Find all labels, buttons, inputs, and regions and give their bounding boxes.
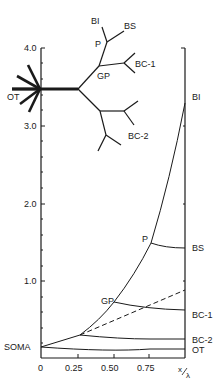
label-ot-right: OT	[192, 345, 205, 355]
x-tick-0: 0	[38, 363, 43, 373]
label-bi-right: BI	[192, 92, 201, 102]
curve-ot	[41, 347, 185, 350]
label-p-curve: P	[142, 234, 148, 244]
y-tick-3: 3.0	[24, 121, 37, 131]
tree-label-ot: OT	[7, 92, 20, 102]
x-axis-label-den: λ	[186, 371, 190, 380]
tree-label-bc1: BC-1	[135, 59, 156, 69]
label-soma: SOMA	[4, 342, 31, 352]
y-tick-2: 2.0	[24, 199, 37, 209]
tree-label-p: P	[95, 39, 101, 49]
label-bc2-right: BC-2	[192, 335, 213, 345]
label-bc1-right: BC-1	[192, 310, 213, 320]
y-tick-1: 1.0	[24, 276, 37, 286]
figure: 4.0 3.0 2.0 1.0 0 0.25 0.50 0.75 x λ SOM…	[0, 0, 224, 386]
label-bs-right: BS	[192, 243, 204, 253]
tree-label-bs: BS	[124, 21, 136, 31]
curve-bc1	[114, 302, 185, 310]
x-axis-label-num: x	[178, 365, 182, 374]
curve-bc2	[80, 335, 185, 339]
x-tick-050: 0.50	[101, 363, 119, 373]
curve-bs	[151, 243, 185, 248]
label-gp-curve: GP	[101, 296, 114, 306]
y-tick-4: 4.0	[24, 43, 37, 53]
curve-dashed	[80, 290, 185, 335]
x-tick-025: 0.25	[65, 363, 83, 373]
x-tick-075: 0.75	[137, 363, 155, 373]
tree-label-bi: BI	[91, 16, 100, 26]
tree-label-bc2: BC-2	[128, 131, 149, 141]
tree-label-gp: GP	[97, 71, 110, 81]
